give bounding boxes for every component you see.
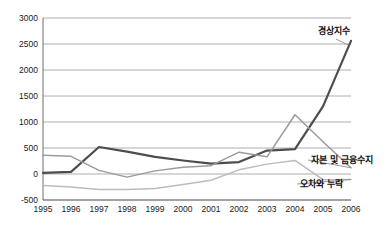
chart-canvas: 300025002000150010005000-500 19951996199… <box>0 0 392 226</box>
series-label-3: 오차와 누락 <box>300 178 344 189</box>
axis-lines-group <box>43 18 351 200</box>
x-axis-tick-labels: 1995199619971998199920002001200220032004… <box>34 204 361 214</box>
series-annotation-labels: 경상지수자본 및 금융수지오차와 누락 <box>300 25 373 189</box>
x-axis-tick-label: 2000 <box>174 204 193 214</box>
y-axis-tick-label: 1000 <box>19 117 38 127</box>
series-label-1: 경상지수 <box>318 25 350 36</box>
x-axis-tick-label: 1996 <box>62 204 81 214</box>
x-axis-tick-label: 1999 <box>146 204 165 214</box>
x-axis-tick-label: 2001 <box>202 204 221 214</box>
x-axis-tick-label: 1997 <box>90 204 109 214</box>
gridlines-group <box>43 18 351 200</box>
x-axis-tick-label: 2003 <box>258 204 277 214</box>
y-axis-tick-label: 0 <box>33 169 38 179</box>
x-axis-tick-label: 2004 <box>286 204 305 214</box>
x-axis-tick-label: 1995 <box>34 204 53 214</box>
y-axis-tick-label: 2500 <box>19 39 38 49</box>
x-axis-tick-label: 2006 <box>342 204 361 214</box>
y-axis-tick-labels: 300025002000150010005000-500 <box>19 13 38 205</box>
series-label-2: 자본 및 금융수지 <box>311 154 373 165</box>
series-line <box>43 41 351 173</box>
balance-of-payments-line-chart: 300025002000150010005000-500 19951996199… <box>0 0 392 226</box>
x-axis-tick-label: 2005 <box>314 204 333 214</box>
y-axis-tick-label: 500 <box>24 143 38 153</box>
y-axis-tick-label: 1500 <box>19 91 38 101</box>
data-series-group <box>43 41 351 190</box>
y-axis-tick-label: 3000 <box>19 13 38 23</box>
y-axis-tick-label: 2000 <box>19 65 38 75</box>
x-axis-tick-label: 2002 <box>230 204 249 214</box>
x-axis-tick-label: 1998 <box>118 204 137 214</box>
